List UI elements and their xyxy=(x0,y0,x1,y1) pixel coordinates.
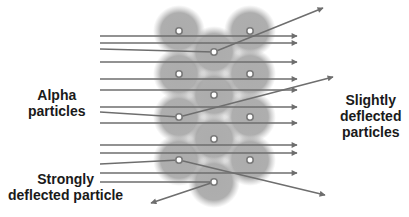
alpha-label-line1: Alpha xyxy=(28,87,86,103)
alpha-particles-label: Alpha particles xyxy=(28,87,86,119)
nucleus-icon xyxy=(176,71,182,77)
strong-label-line2: deflected particle xyxy=(8,187,123,203)
nucleus-icon xyxy=(247,28,253,34)
nucleus-icon xyxy=(211,49,217,55)
nucleus-icon xyxy=(176,28,182,34)
nucleus-icon xyxy=(247,157,253,163)
nucleus-icon xyxy=(211,92,217,98)
nucleus-icon xyxy=(176,114,182,120)
strong-label-line1: Strongly xyxy=(8,171,123,187)
slight-label-line2: deflected xyxy=(340,108,401,124)
rutherford-scattering-diagram: Alpha particles Slightly deflected parti… xyxy=(0,0,409,217)
nucleus-icon xyxy=(247,114,253,120)
nucleus-icon xyxy=(211,179,217,185)
strongly-deflected-label: Strongly deflected particle xyxy=(8,171,123,203)
slight-label-line1: Slightly xyxy=(340,92,401,108)
nucleus-icon xyxy=(211,136,217,142)
nucleus-icon xyxy=(247,71,253,77)
nucleus-icon xyxy=(176,157,182,163)
slightly-deflected-label: Slightly deflected particles xyxy=(340,92,401,140)
alpha-label-line2: particles xyxy=(28,103,86,119)
slight-label-line3: particles xyxy=(340,124,401,140)
